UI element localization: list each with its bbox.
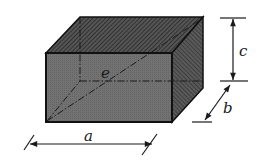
width-label-b: b: [223, 99, 233, 117]
length-label-a: a: [84, 127, 93, 145]
cuboid-diagram: e c b a: [0, 0, 265, 168]
height-label-c: c: [239, 42, 248, 60]
diagonal-label-e: e: [101, 64, 110, 82]
